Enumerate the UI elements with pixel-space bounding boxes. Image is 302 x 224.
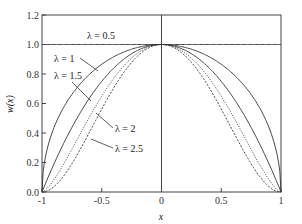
curve-label: λ = 2 xyxy=(115,123,136,134)
x-tick-label: 1 xyxy=(279,195,284,206)
y-tick-label: 0.0 xyxy=(27,187,40,198)
x-tick-label: 0.5 xyxy=(215,195,228,206)
y-tick-label: 0.4 xyxy=(27,128,40,139)
annotation-leader xyxy=(80,58,98,71)
annotation-leader xyxy=(91,139,113,148)
plot-frame xyxy=(42,15,281,192)
y-tick-label: 0.8 xyxy=(27,69,40,80)
y-axis-label: w(x) xyxy=(4,94,16,112)
curve-label: λ = 2.5 xyxy=(115,143,143,154)
y-tick-label: 1.0 xyxy=(27,39,40,50)
x-axis-label: x xyxy=(158,211,164,222)
y-tick-label: 0.2 xyxy=(27,157,40,168)
annotation-leader xyxy=(72,82,91,101)
curve-label: λ = 0.5 xyxy=(87,30,115,41)
curve-label: λ = 1.5 xyxy=(54,70,82,81)
x-tick-label: -0.5 xyxy=(94,195,110,206)
x-tick-label: 0 xyxy=(159,195,164,206)
axis-ticks: -1-0.500.510.00.20.40.60.81.01.2 xyxy=(27,10,284,207)
y-tick-label: 0.6 xyxy=(27,98,40,109)
y-tick-label: 1.2 xyxy=(27,10,40,21)
chart: -1-0.500.510.00.20.40.60.81.01.2 λ = 0.5… xyxy=(0,0,302,224)
x-tick-label: -1 xyxy=(38,195,46,206)
curve-label: λ = 1 xyxy=(54,53,75,64)
annotation-leader xyxy=(96,113,113,128)
